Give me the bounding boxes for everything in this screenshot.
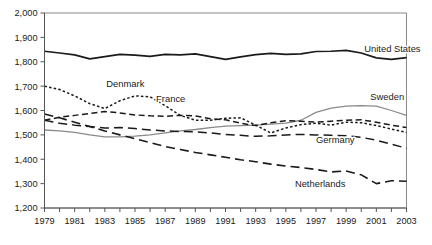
x-tick-label: 2003 (396, 216, 416, 226)
y-axis-ticks: 1,2001,3001,4001,5001,6001,7001,8001,900… (15, 8, 45, 213)
series-label-denmark: Denmark (106, 78, 144, 89)
x-tick-label: 1979 (34, 216, 54, 226)
series-line-france (45, 111, 407, 127)
series-line-netherlands (45, 114, 407, 184)
x-tick-label: 1995 (276, 216, 296, 226)
y-tick-label: 1,900 (15, 33, 38, 43)
y-tick-label: 1,800 (15, 57, 38, 67)
y-tick-label: 1,500 (15, 130, 38, 140)
y-tick-label: 2,000 (15, 8, 38, 18)
x-tick-label: 1997 (306, 216, 326, 226)
x-tick-label: 2001 (366, 216, 386, 226)
y-tick-label: 1,200 (15, 203, 38, 213)
x-tick-label: 1985 (125, 216, 145, 226)
data-series-group (45, 50, 407, 183)
series-label-netherlands: Netherlands (295, 178, 346, 189)
plot-border (45, 13, 407, 208)
axis-lines (45, 13, 407, 208)
series-label-germany: Germany (316, 134, 355, 145)
series-line-united-states (45, 50, 407, 59)
x-tick-label: 1993 (245, 216, 265, 226)
y-tick-label: 1,700 (15, 82, 38, 92)
series-label-united-states: United States (364, 43, 421, 54)
y-tick-label: 1,300 (15, 179, 38, 189)
x-tick-label: 1981 (64, 216, 84, 226)
plot-frame (45, 13, 407, 208)
x-tick-label: 1999 (336, 216, 356, 226)
series-label-france: France (156, 93, 185, 104)
series-line-sweden (45, 106, 407, 137)
line-chart: 1,2001,3001,4001,5001,6001,7001,8001,900… (0, 0, 432, 245)
x-tick-label: 1991 (215, 216, 235, 226)
y-tick-label: 1,600 (15, 106, 38, 116)
chart-canvas: 1,2001,3001,4001,5001,6001,7001,8001,900… (0, 0, 432, 245)
y-tick-label: 1,400 (15, 155, 38, 165)
x-axis-ticks: 1979198119831985198719891991199319951997… (34, 208, 416, 226)
series-label-sweden: Sweden (370, 91, 404, 102)
x-tick-label: 1983 (95, 216, 115, 226)
x-tick-label: 1987 (155, 216, 175, 226)
x-tick-label: 1989 (185, 216, 205, 226)
